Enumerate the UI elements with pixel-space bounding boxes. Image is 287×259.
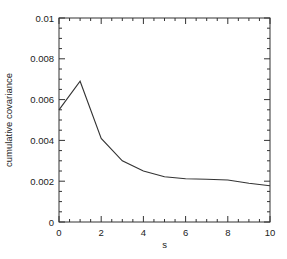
y-tick-labels: 00.0020.0040.0060.0080.01 bbox=[30, 13, 54, 228]
x-tick-labels: 0246810 bbox=[56, 227, 275, 238]
y-tick-label: 0.002 bbox=[30, 176, 54, 187]
x-tick-label: 2 bbox=[99, 227, 104, 238]
x-tick-label: 8 bbox=[225, 227, 230, 238]
line-chart: 00.0020.0040.0060.0080.01 0246810 s cumu… bbox=[0, 0, 287, 259]
y-tick-label: 0.006 bbox=[30, 94, 54, 105]
series-line bbox=[59, 81, 270, 186]
x-tick-label: 0 bbox=[56, 227, 61, 238]
plot-frame bbox=[59, 18, 270, 222]
y-axis-label: cumulative covariance bbox=[3, 73, 14, 167]
y-tick-label: 0.008 bbox=[30, 53, 54, 64]
y-tick-label: 0.01 bbox=[36, 13, 55, 24]
x-tick-label: 4 bbox=[141, 227, 146, 238]
y-tick-label: 0 bbox=[49, 217, 54, 228]
x-axis-label: s bbox=[162, 239, 167, 250]
x-tick-label: 6 bbox=[183, 227, 188, 238]
x-tick-label: 10 bbox=[265, 227, 276, 238]
axis-ticks bbox=[59, 18, 270, 222]
y-tick-label: 0.004 bbox=[30, 135, 54, 146]
